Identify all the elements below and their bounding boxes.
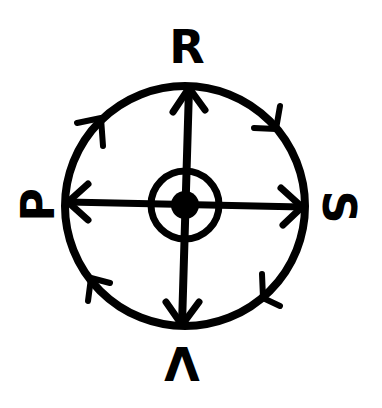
label-v: V [152,338,212,388]
center-dot [171,191,199,219]
label-p: P [13,175,63,235]
label-r: R [157,22,217,72]
label-s: S [314,177,364,237]
cycle-diagram: R S V P [0,0,382,408]
